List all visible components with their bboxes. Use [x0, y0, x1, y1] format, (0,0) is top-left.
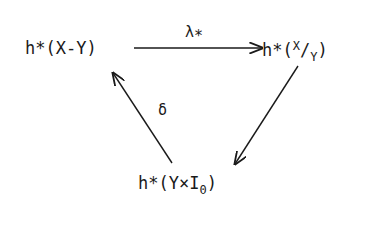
node-suffix: ) [317, 40, 327, 60]
label-lambda: λ [185, 23, 194, 41]
node-prefix: h*(Y×I [138, 173, 199, 193]
node-h-star-x-minus-y: h*(X-Y) [25, 40, 97, 57]
node-text: h*(X-Y) [25, 38, 97, 58]
label-delta: δ [158, 103, 167, 118]
node-prefix: h*( [262, 40, 293, 60]
label-lambda-star: λ* [185, 25, 203, 44]
node-suffix: ) [207, 173, 217, 193]
arrow-right-to-bottom [235, 66, 298, 164]
node-h-star-x-over-y: h*(X/Y) [262, 40, 328, 63]
node-h-star-y-times-i0: h*(Y×I0) [138, 175, 217, 196]
label-delta-text: δ [158, 101, 167, 119]
node-subscript: 0 [199, 183, 206, 197]
quotient-slash: / [300, 40, 310, 60]
quotient-numerator: X [293, 39, 300, 53]
label-star: * [194, 27, 203, 45]
